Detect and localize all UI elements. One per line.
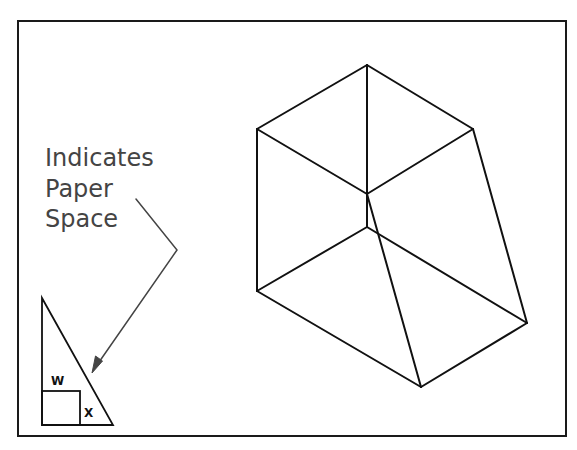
x-axis-label: X (84, 406, 94, 420)
edge-left-center_upper (257, 129, 367, 194)
edge-top-right (367, 65, 473, 129)
edge-lower_left-bottom (257, 291, 421, 387)
edge-center_lower-lower_left (257, 227, 367, 291)
edge-center_lower-right_bottom (367, 227, 527, 323)
annotation-line-1: Indicates (45, 144, 154, 172)
square-icon (42, 391, 80, 425)
diagram-canvas: Indicates Paper Space W X (0, 0, 577, 450)
annotation-line-3: Space (45, 205, 118, 233)
edge-bottom-right_bottom (421, 323, 527, 387)
edge-center_upper-bottom (367, 194, 421, 387)
edge-right-center_upper (367, 129, 473, 194)
edge-top-left (257, 65, 367, 129)
wireframe-solid (257, 65, 527, 387)
edge-right-right_bottom (473, 129, 527, 323)
annotation-line-2: Paper (45, 175, 113, 203)
w-axis-label: W (51, 374, 64, 388)
